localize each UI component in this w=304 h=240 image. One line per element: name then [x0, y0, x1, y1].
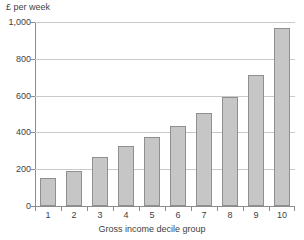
bar: [170, 126, 186, 206]
x-axis-tick-label: 1: [35, 210, 61, 221]
bar: [196, 113, 212, 206]
bar-chart: £ per week 02004006008001,000 1234567891…: [0, 0, 304, 240]
bar: [274, 28, 290, 206]
y-axis-tick-label: 800: [1, 55, 31, 64]
x-axis-tick-label: 5: [139, 210, 165, 221]
bar: [248, 75, 264, 206]
bar: [222, 97, 238, 206]
y-axis-tick-label: 200: [1, 165, 31, 174]
x-axis-tick-label: 2: [61, 210, 87, 221]
x-axis-tick-label: 3: [87, 210, 113, 221]
y-axis-tick-label: 600: [1, 92, 31, 101]
y-axis-tick-label: 400: [1, 128, 31, 137]
bar: [118, 146, 134, 206]
bar: [40, 178, 56, 206]
y-axis-tick-label: 0: [1, 202, 31, 211]
bar: [92, 157, 108, 206]
x-axis-tick-label: 10: [269, 210, 295, 221]
plot-area: [35, 22, 295, 207]
x-axis-tick-label: 4: [113, 210, 139, 221]
y-axis-tick-labels: 02004006008001,000: [0, 22, 31, 207]
y-axis-tick-label: 1,000: [1, 18, 31, 27]
x-axis-tick-label: 7: [191, 210, 217, 221]
bar: [144, 137, 160, 206]
x-axis-tick-label: 8: [217, 210, 243, 221]
bars-group: [35, 22, 295, 206]
x-axis-title: Gross income decile group: [0, 224, 304, 235]
bar: [66, 171, 82, 206]
y-axis-title: £ per week: [6, 2, 50, 13]
x-axis-tick-label: 9: [243, 210, 269, 221]
x-axis-tick-labels: 12345678910: [35, 210, 295, 222]
x-axis-tick-label: 6: [165, 210, 191, 221]
